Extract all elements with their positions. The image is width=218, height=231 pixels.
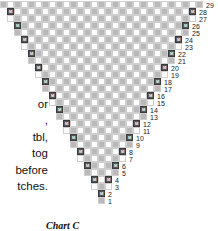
chart-row	[56, 113, 147, 120]
chart-cell	[91, 50, 98, 57]
chart-cell	[77, 43, 84, 50]
chart-cell	[126, 43, 133, 50]
chart-cell	[126, 127, 133, 134]
chart-cell	[112, 127, 119, 134]
chart-cell	[126, 64, 133, 71]
chart-cell	[77, 85, 84, 92]
chart-cell	[49, 78, 56, 85]
chart-cell	[35, 8, 42, 15]
chart-cell	[140, 50, 147, 57]
chart-cell	[168, 8, 175, 15]
chart-cell	[119, 8, 126, 15]
chart-cell	[112, 120, 119, 127]
chart-cell	[161, 43, 168, 50]
chart-cell	[133, 29, 140, 36]
chart-cell-marker: M	[147, 92, 154, 99]
chart-cell	[14, 8, 21, 15]
chart-cell	[98, 78, 105, 85]
chart-row	[98, 197, 105, 204]
chart-cell	[168, 1, 175, 8]
chart-cell	[91, 1, 98, 8]
chart-cell	[112, 57, 119, 64]
chart-cell	[84, 57, 91, 64]
chart-cell	[56, 50, 63, 57]
chart-row: MM	[77, 148, 126, 155]
chart-cell	[0, 1, 7, 8]
chart-cell	[126, 120, 133, 127]
chart-row	[91, 183, 112, 190]
chart-cell-marker: M	[35, 64, 42, 71]
chart-cell	[98, 36, 105, 43]
row-number-label: 4	[115, 177, 119, 184]
chart-cell	[105, 36, 112, 43]
row-number-label: 23	[185, 44, 193, 51]
chart-cell	[112, 141, 119, 148]
chart-cell	[84, 106, 91, 113]
chart-cell-marker: M	[7, 8, 14, 15]
row-number-label: 11	[143, 128, 150, 135]
chart-cell	[105, 1, 112, 8]
chart-cell	[98, 176, 105, 183]
chart-cell	[140, 36, 147, 43]
chart-cell-marker: M	[154, 78, 161, 85]
chart-cell	[42, 57, 49, 64]
chart-cell-marker: M	[98, 190, 105, 197]
chart-cell	[112, 85, 119, 92]
chart-cell	[91, 29, 98, 36]
chart-cell-marker: M	[70, 134, 77, 141]
chart-cell-marker: M	[133, 120, 140, 127]
chart-cell	[28, 29, 35, 36]
chart-cell	[42, 85, 49, 92]
chart-cell	[98, 134, 105, 141]
chart-cell	[49, 15, 56, 22]
chart-cell-marker: M	[84, 162, 91, 169]
chart-cell	[42, 22, 49, 29]
chart-cell	[175, 15, 182, 22]
chart-cell	[63, 8, 70, 15]
chart-row	[49, 99, 154, 106]
chart-cell	[140, 15, 147, 22]
chart-cell	[105, 50, 112, 57]
chart-cell	[49, 29, 56, 36]
chart-cell	[56, 22, 63, 29]
chart-cell	[98, 64, 105, 71]
chart-cell	[91, 155, 98, 162]
chart-cell	[56, 92, 63, 99]
chart-cell	[182, 1, 189, 8]
chart-cell	[105, 183, 112, 190]
chart-cell	[70, 15, 77, 22]
chart-cell	[168, 43, 175, 50]
chart-cell	[112, 134, 119, 141]
chart-cell	[182, 29, 189, 36]
chart-cell	[35, 57, 42, 64]
chart-cell	[119, 57, 126, 64]
chart-cell	[119, 113, 126, 120]
chart-cell	[70, 50, 77, 57]
chart-cell	[140, 78, 147, 85]
chart-cell	[154, 43, 161, 50]
chart-cell	[77, 57, 84, 64]
chart-cell-marker: M	[168, 50, 175, 57]
chart-cell	[63, 127, 70, 134]
chart-cell-marker: M	[126, 134, 133, 141]
chart-cell	[119, 99, 126, 106]
chart-cell	[105, 43, 112, 50]
chart-cell	[133, 1, 140, 8]
chart-cell	[147, 64, 154, 71]
chart-cell	[63, 78, 70, 85]
row-number-label: 14	[150, 107, 158, 114]
row-number-label: 18	[164, 79, 172, 86]
chart-cell	[98, 71, 105, 78]
row-number-label: 8	[129, 149, 133, 156]
chart-row: MM	[63, 120, 140, 127]
chart-cell-marker: M	[49, 92, 56, 99]
chart-cell	[49, 43, 56, 50]
chart-cell	[84, 36, 91, 43]
chart-cell	[49, 99, 56, 106]
chart-cell	[98, 15, 105, 22]
chart-cell	[77, 50, 84, 57]
chart-cell	[154, 85, 161, 92]
chart-cell	[119, 134, 126, 141]
chart-cell	[28, 8, 35, 15]
chart-cell	[77, 155, 84, 162]
